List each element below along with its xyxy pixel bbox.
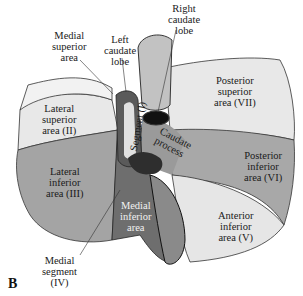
label-medial-inferior-area: Medial inferior area bbox=[120, 200, 152, 233]
label-left-caudate-lobe: Left caudate lobe bbox=[104, 34, 136, 67]
label-posterior-superior-area: Posterior superior area (VII) bbox=[214, 75, 256, 108]
liver-segments-diagram bbox=[0, 0, 303, 296]
label-lateral-superior-area: Lateral superior area (II) bbox=[42, 103, 76, 136]
label-medial-superior-area: Medial superior area bbox=[52, 30, 86, 63]
panel-letter: B bbox=[8, 276, 17, 292]
label-anterior-inferior-area: Anterior inferior area (V) bbox=[218, 210, 254, 243]
vena-cava-opening bbox=[143, 111, 169, 125]
label-right-caudate-lobe: Right caudate lobe bbox=[168, 3, 200, 36]
label-lateral-inferior-area: Lateral inferior area (III) bbox=[46, 166, 84, 199]
label-medial-segment: Medial segment (IV) bbox=[42, 255, 77, 288]
label-posterior-inferior-area: Posterior inferior area (VI) bbox=[244, 150, 282, 183]
